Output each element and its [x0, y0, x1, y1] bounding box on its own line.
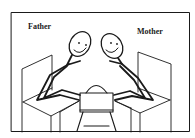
mother-head [97, 30, 127, 63]
father-head [65, 28, 95, 61]
father-body [37, 55, 80, 100]
drawing-canvas [0, 0, 195, 138]
child-figure [77, 86, 116, 132]
mother-label: Mother [137, 27, 163, 36]
father-chair [22, 55, 79, 132]
father-label: Father [28, 22, 51, 31]
mother-body [110, 58, 153, 100]
family-illustration: Father Mother [0, 0, 195, 138]
